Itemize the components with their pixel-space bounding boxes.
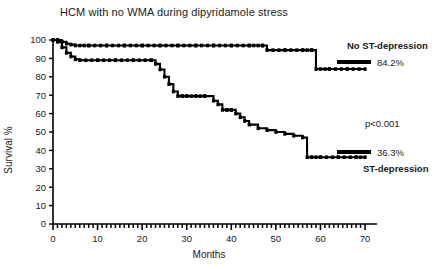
- censor-mark: [158, 44, 161, 48]
- x-tick-label: 20: [137, 233, 148, 244]
- censor-mark: [90, 58, 93, 62]
- label-no-st-depression-value: 84.2%: [377, 57, 404, 68]
- x-tick-label: 40: [226, 233, 237, 244]
- censor-mark: [346, 67, 349, 71]
- censor-mark: [306, 48, 309, 52]
- censor-mark: [212, 44, 215, 48]
- censor-mark: [218, 44, 221, 48]
- censor-mark: [114, 58, 117, 62]
- censor-mark: [314, 155, 317, 159]
- censor-mark: [337, 155, 340, 159]
- censor-mark: [230, 108, 233, 112]
- censor-mark: [265, 128, 268, 132]
- x-tick-label: 10: [92, 233, 103, 244]
- censor-mark: [167, 82, 170, 86]
- censor-mark: [188, 44, 191, 48]
- censor-mark: [242, 44, 245, 48]
- censor-mark: [154, 62, 157, 66]
- censor-mark: [78, 58, 81, 62]
- x-axis-title: Months: [193, 249, 226, 260]
- censor-mark: [331, 155, 334, 159]
- censor-mark: [87, 44, 90, 48]
- censor-mark: [69, 55, 72, 59]
- censor-mark: [120, 58, 123, 62]
- censor-mark: [343, 155, 346, 159]
- censor-mark: [181, 94, 184, 98]
- censor-mark: [224, 44, 227, 48]
- censor-mark: [190, 94, 193, 98]
- y-tick-label: 50: [35, 126, 46, 137]
- censor-mark: [355, 155, 358, 159]
- censor-mark: [306, 155, 309, 159]
- series-line: [53, 40, 365, 157]
- censor-mark: [194, 44, 197, 48]
- censor-mark: [163, 75, 166, 79]
- censor-mark: [164, 44, 167, 48]
- censor-mark: [261, 44, 264, 48]
- censor-mark: [239, 115, 242, 119]
- censor-mark: [185, 94, 188, 98]
- censor-mark: [310, 155, 313, 159]
- censor-mark: [257, 127, 260, 131]
- censor-mark: [56, 40, 59, 44]
- censor-mark: [295, 48, 298, 52]
- censor-mark: [230, 44, 233, 48]
- survival-chart: HCM with no WMA during dipyridamole stre…: [0, 0, 446, 269]
- censor-mark: [74, 58, 77, 62]
- label-no-st-depression: No ST-depression: [347, 40, 428, 51]
- censor-mark: [203, 94, 206, 98]
- censor-mark: [271, 48, 274, 52]
- censor-mark: [310, 48, 313, 52]
- censor-mark: [172, 90, 175, 94]
- legend-dash-st-depression: [337, 150, 371, 154]
- censor-mark: [96, 58, 99, 62]
- censor-mark: [340, 67, 343, 71]
- censor-mark: [234, 112, 237, 116]
- censor-mark: [132, 58, 135, 62]
- censor-mark: [138, 58, 141, 62]
- censor-mark: [359, 155, 362, 159]
- y-tick-label: 40: [35, 145, 46, 156]
- censor-mark: [117, 44, 120, 48]
- censor-mark: [150, 58, 153, 62]
- censor-mark: [176, 94, 179, 98]
- y-tick-label: 30: [35, 163, 46, 174]
- censor-mark: [319, 155, 322, 159]
- censor-mark: [199, 94, 202, 98]
- censor-mark: [194, 94, 197, 98]
- censor-mark: [323, 67, 326, 71]
- label-st-depression: ST-depression: [363, 163, 428, 174]
- y-tick-label: 0: [41, 218, 46, 229]
- censor-mark: [102, 58, 105, 62]
- censor-mark: [216, 103, 219, 107]
- censor-mark: [289, 48, 292, 52]
- censor-mark: [325, 155, 328, 159]
- censor-mark: [257, 44, 260, 48]
- censor-mark: [99, 44, 102, 48]
- y-tick-label: 10: [35, 200, 46, 211]
- censor-mark: [135, 44, 138, 48]
- censor-mark: [319, 67, 322, 71]
- censor-mark: [225, 108, 228, 112]
- censor-mark: [252, 44, 255, 48]
- y-tick-label: 70: [35, 90, 46, 101]
- censor-mark: [283, 48, 286, 52]
- y-tick-label: 90: [35, 53, 46, 64]
- censor-mark: [123, 44, 126, 48]
- censor-mark: [111, 44, 114, 48]
- censor-mark: [141, 44, 144, 48]
- y-tick-label: 60: [35, 108, 46, 119]
- censor-mark: [60, 46, 63, 50]
- censor-mark: [105, 44, 108, 48]
- censor-mark: [301, 136, 304, 140]
- censor-mark: [352, 67, 355, 71]
- label-p-value: p<0.001: [365, 118, 400, 129]
- x-tick-label: 50: [271, 233, 282, 244]
- censor-mark: [364, 155, 367, 159]
- censor-mark: [182, 44, 185, 48]
- censor-mark: [147, 44, 150, 48]
- axes: 0102030405060708090100010203040506070: [30, 34, 377, 244]
- censor-mark: [170, 44, 173, 48]
- censor-mark: [248, 123, 251, 127]
- censor-mark: [221, 108, 224, 112]
